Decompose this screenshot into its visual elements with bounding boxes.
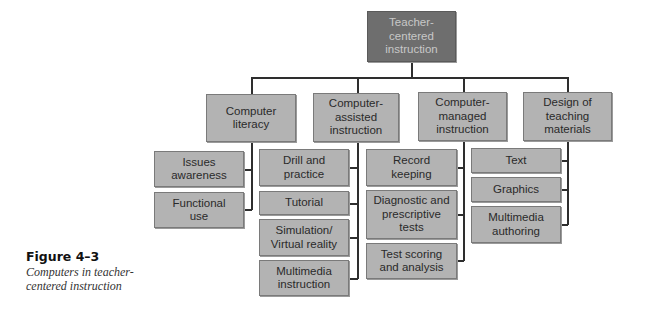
connector-bus — [251, 77, 568, 79]
node-functional-use: Functional use — [154, 192, 244, 228]
connector-cat-2 — [357, 77, 359, 93]
connector-cat-3-child-3 — [457, 260, 464, 262]
node-graphics: Graphics — [471, 177, 561, 202]
connector-cat-4-child-2 — [561, 189, 568, 191]
node-computer-literacy: Computer literacy — [206, 94, 296, 142]
node-multimedia-instruction: Multimedia instruction — [259, 260, 349, 296]
connector-cat-4-spine — [567, 141, 569, 225]
connector-cat-3-spine — [463, 141, 465, 261]
connector-cat-1 — [251, 77, 253, 94]
connector-cat-2-child-4 — [349, 278, 358, 280]
connector-cat-3 — [463, 77, 465, 92]
connector-cat-1-child-2 — [244, 209, 252, 211]
node-test-scoring-and-analysis: Test scoring and analysis — [366, 243, 457, 279]
connector-cat-2-child-3 — [349, 237, 358, 239]
connector-cat-1-child-1 — [244, 169, 252, 171]
node-root: Teacher- centered instruction — [367, 11, 456, 62]
connector-root-down — [411, 62, 413, 78]
figure-caption-text: Computers in teacher-centered instructio… — [26, 265, 136, 293]
connector-cat-4-child-3 — [561, 224, 568, 226]
node-diagnostic-and-prescriptive-tests: Diagnostic and prescriptive tests — [366, 190, 457, 239]
node-design-of-teaching-materials: Design of teaching materials — [523, 92, 612, 141]
connector-cat-4 — [567, 77, 569, 92]
connector-cat-3-child-1 — [457, 167, 464, 169]
connector-cat-4-child-1 — [561, 160, 568, 162]
node-record-keeping: Record keeping — [366, 149, 457, 186]
node-tutorial: Tutorial — [259, 191, 349, 215]
node-drill-and-practice: Drill and practice — [259, 149, 349, 186]
connector-cat-2-spine — [357, 142, 359, 279]
figure-caption-title: Figure 4–3 — [26, 249, 99, 264]
connector-cat-3-child-2 — [457, 214, 464, 216]
node-issues-awareness: Issues awareness — [154, 151, 244, 187]
node-simulation-virtual-reality: Simulation/ Virtual reality — [259, 219, 349, 256]
connector-cat-2-child-2 — [349, 203, 358, 205]
node-computer-managed-instruction: Computer- managed instruction — [418, 92, 507, 141]
node-text: Text — [471, 148, 561, 173]
connector-cat-2-child-1 — [349, 167, 358, 169]
node-multimedia-authoring: Multimedia authoring — [471, 206, 561, 243]
node-computer-assisted-instruction: Computer- assisted instruction — [313, 93, 399, 142]
connector-cat-1-spine — [251, 142, 253, 210]
